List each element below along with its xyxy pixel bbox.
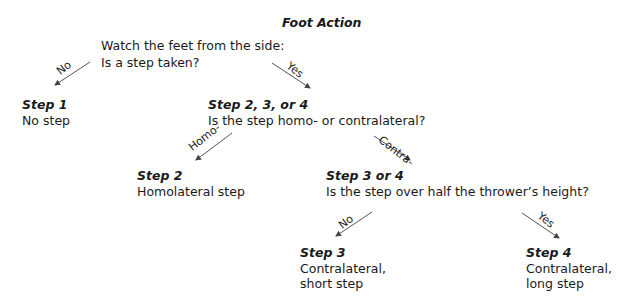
step34-question: Is the step over half the thrower’s heig… bbox=[326, 184, 589, 199]
step3-heading: Step 3 bbox=[300, 245, 345, 260]
step4-line2: long step bbox=[526, 276, 584, 291]
step1-heading: Step 1 bbox=[22, 97, 67, 112]
step4-line1: Contralateral, bbox=[526, 261, 612, 276]
step234-question: Is the step homo- or contralateral? bbox=[208, 113, 425, 128]
step1-text: No step bbox=[22, 113, 70, 128]
step34-heading: Step 3 or 4 bbox=[326, 168, 404, 183]
step234-heading: Step 2, 3, or 4 bbox=[208, 97, 308, 112]
step3-line1: Contralateral, bbox=[300, 261, 386, 276]
step3-line2: short step bbox=[300, 276, 363, 291]
step4-heading: Step 4 bbox=[526, 245, 571, 260]
step2-text: Homolateral step bbox=[137, 184, 245, 199]
step2-heading: Step 2 bbox=[137, 168, 182, 183]
